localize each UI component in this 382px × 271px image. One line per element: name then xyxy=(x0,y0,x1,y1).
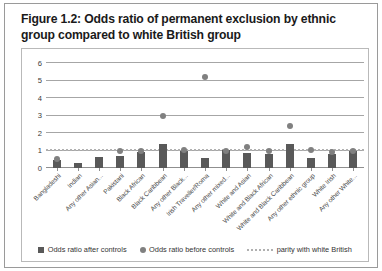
x-axis-tick-mark xyxy=(311,168,312,171)
circle-marker-icon xyxy=(140,247,146,253)
page-title: Figure 1.2: Odds ratio of permanent excl… xyxy=(21,12,361,43)
x-axis-tick-mark xyxy=(353,168,354,171)
chart-plot-area: 0123456 BangladeshiIndianAny other Asian… xyxy=(46,63,364,168)
x-axis-tick-label: Bangladeshi xyxy=(32,172,62,202)
x-axis-tick-mark xyxy=(269,168,270,171)
y-axis-tick-label: 5 xyxy=(38,76,42,85)
chart-category-group: Black African xyxy=(131,63,152,168)
x-axis-tick-mark xyxy=(226,168,227,171)
dotted-line-icon xyxy=(247,249,273,251)
point-odds-ratio-before-controls xyxy=(350,148,356,154)
square-marker-icon xyxy=(38,247,44,253)
point-odds-ratio-before-controls xyxy=(117,148,123,154)
legend-item: Odds ratio after controls xyxy=(38,245,126,254)
bar-odds-ratio-after-controls xyxy=(180,151,188,169)
x-axis-tick-mark xyxy=(141,168,142,171)
bar-odds-ratio-after-controls xyxy=(328,154,336,168)
bar-odds-ratio-after-controls xyxy=(116,156,124,168)
legend-item-label: parity with white British xyxy=(277,245,352,254)
bar-odds-ratio-after-controls xyxy=(265,154,273,168)
chart-category-group: Any other Black... xyxy=(173,63,194,168)
bar-odds-ratio-after-controls xyxy=(137,152,145,168)
chart-category-group: Bangladeshi xyxy=(46,63,67,168)
bar-odds-ratio-after-controls xyxy=(307,158,315,169)
point-odds-ratio-before-controls xyxy=(160,113,166,119)
legend-item-label: Odds ratio after controls xyxy=(48,245,127,254)
y-axis-tick-label: 1 xyxy=(38,146,42,155)
point-odds-ratio-before-controls xyxy=(287,123,293,129)
chart-category-group: Any other Asian... xyxy=(88,63,109,168)
chart-category-group: White Irish xyxy=(322,63,343,168)
x-axis-tick-label: Any other Asian... xyxy=(64,172,104,212)
bar-odds-ratio-after-controls xyxy=(159,144,167,168)
chart-category-group: White and Black African xyxy=(258,63,279,168)
chart-category-group: Any other White... xyxy=(343,63,364,168)
x-axis-tick-mark xyxy=(57,168,58,171)
chart-category-group: Any other mixed... xyxy=(216,63,237,168)
point-odds-ratio-before-controls xyxy=(308,147,314,153)
point-odds-ratio-before-controls xyxy=(266,148,272,154)
y-axis-tick-label: 6 xyxy=(38,58,42,67)
bar-odds-ratio-after-controls xyxy=(286,144,294,168)
x-axis-tick-mark xyxy=(184,168,185,171)
point-odds-ratio-before-controls xyxy=(54,156,60,162)
x-axis-tick-mark xyxy=(205,168,206,171)
x-axis-tick-mark xyxy=(78,168,79,171)
y-axis-tick-label: 4 xyxy=(38,93,42,102)
point-odds-ratio-before-controls xyxy=(223,148,229,154)
chart-category-group: Black Caribbean xyxy=(152,63,173,168)
chart-legend: Odds ratio after controlsOdds ratio befo… xyxy=(22,245,368,254)
x-axis-tick-mark xyxy=(120,168,121,171)
x-axis-tick-mark xyxy=(332,168,333,171)
x-axis-tick-mark xyxy=(163,168,164,171)
bar-odds-ratio-after-controls xyxy=(349,151,357,168)
bar-odds-ratio-after-controls xyxy=(243,153,251,168)
chart-category-group: Pakistani xyxy=(110,63,131,168)
chart-category-group: Indian xyxy=(67,63,88,168)
legend-item-label: Odds ratio before controls xyxy=(149,245,234,254)
x-axis-tick-label: Any other Black... xyxy=(149,172,189,212)
x-axis-tick-mark xyxy=(247,168,248,171)
chart-category-group: White and Asian xyxy=(237,63,258,168)
x-axis-tick-mark xyxy=(290,168,291,171)
chart-category-group: Any other ethnic group xyxy=(300,63,321,168)
chart-category-group: Irish Traveller/Roma xyxy=(194,63,215,168)
legend-item: Odds ratio before controls xyxy=(140,245,235,254)
legend-item: parity with white British xyxy=(247,245,352,254)
y-axis-tick-label: 2 xyxy=(38,128,42,137)
y-axis-tick-label: 3 xyxy=(38,111,42,120)
point-odds-ratio-before-controls xyxy=(181,147,187,153)
bar-odds-ratio-after-controls xyxy=(201,158,209,169)
point-odds-ratio-before-controls xyxy=(202,74,208,80)
x-axis-tick-mark xyxy=(99,168,100,171)
y-axis-tick-label: 0 xyxy=(38,163,42,172)
point-odds-ratio-before-controls xyxy=(138,148,144,154)
chart-category-group: White and Black Caribbean xyxy=(279,63,300,168)
figure-container: Figure 1.2: Odds ratio of permanent excl… xyxy=(4,3,378,268)
bar-odds-ratio-after-controls xyxy=(95,157,103,168)
x-axis-tick-label: Indian xyxy=(65,172,82,189)
chart-plot-container: 0123456 BangladeshiIndianAny other Asian… xyxy=(21,48,369,262)
point-odds-ratio-before-controls xyxy=(244,144,250,150)
x-axis-tick-label: Any other White... xyxy=(318,172,359,213)
